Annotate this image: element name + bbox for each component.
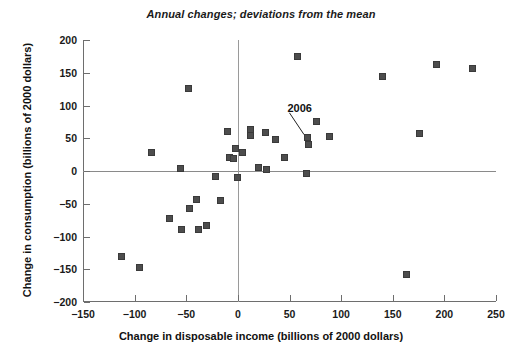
- data-point: [262, 129, 269, 136]
- annotation-label-2006: 2006: [287, 102, 311, 114]
- y-tick-label-0: 0: [71, 165, 77, 177]
- y-tick-label--150: −150: [53, 263, 77, 275]
- y-tick-100: [84, 106, 90, 107]
- y-tick-50: [84, 138, 90, 139]
- x-tick-label-50: 50: [284, 308, 296, 320]
- chart-title: Annual changes; deviations from the mean: [0, 8, 522, 20]
- data-point: [178, 226, 185, 233]
- data-point: [230, 155, 237, 162]
- data-point: [166, 215, 173, 222]
- data-point: [193, 196, 200, 203]
- data-point: [379, 73, 386, 80]
- y-tick-label-100: 100: [59, 100, 77, 112]
- data-point: [186, 205, 193, 212]
- data-point: [433, 61, 440, 68]
- x-tick-label-200: 200: [436, 308, 454, 320]
- data-point: [313, 118, 320, 125]
- data-point: [255, 164, 262, 171]
- x-tick-label-100: 100: [332, 308, 350, 320]
- data-point: [239, 149, 246, 156]
- plot-area: −200−150−100−50050100150200 −150−100−500…: [83, 40, 496, 302]
- x-tick-label-0: 0: [235, 308, 241, 320]
- y-tick-label--100: −100: [53, 231, 77, 243]
- x-axis-title: Change in disposable income (billions of…: [0, 330, 522, 342]
- scatter-chart-figure: Annual changes; deviations from the mean…: [0, 0, 522, 360]
- x-tick-100: [341, 295, 342, 301]
- x-tick-label-250: 250: [487, 308, 505, 320]
- data-point: [148, 149, 155, 156]
- y-tick-label-150: 150: [59, 67, 77, 79]
- data-point: [305, 141, 312, 148]
- y-tick-label--200: −200: [53, 296, 77, 308]
- y-tick-label-200: 200: [59, 34, 77, 46]
- x-tick-150: [393, 295, 394, 301]
- data-point: [263, 166, 270, 173]
- x-tick-label--100: −100: [123, 308, 147, 320]
- data-point: [185, 85, 192, 92]
- y-tick--200: [84, 302, 90, 303]
- zero-vertical-reference-line: [238, 40, 239, 302]
- data-point: [326, 133, 333, 140]
- data-point: [294, 53, 301, 60]
- data-point: [403, 271, 410, 278]
- x-tick-label-150: 150: [384, 308, 402, 320]
- y-tick--50: [84, 204, 90, 205]
- x-tick-200: [444, 295, 445, 301]
- data-point: [177, 165, 184, 172]
- data-point: [217, 197, 224, 204]
- data-point: [212, 173, 219, 180]
- x-tick-250: [496, 295, 497, 301]
- y-tick-label-50: 50: [65, 132, 77, 144]
- y-tick-label--50: −50: [59, 198, 77, 210]
- data-point: [203, 222, 210, 229]
- y-axis-title: Change in consumption (billions of 2000 …: [21, 30, 33, 310]
- data-point: [281, 154, 288, 161]
- data-point: [224, 128, 231, 135]
- x-tick-label--50: −50: [177, 308, 195, 320]
- zero-horizontal-reference-line: [83, 171, 496, 172]
- y-tick--100: [84, 237, 90, 238]
- data-point: [469, 65, 476, 72]
- y-tick-200: [84, 40, 90, 41]
- data-point: [416, 130, 423, 137]
- x-tick--50: [186, 295, 187, 301]
- y-tick--150: [84, 269, 90, 270]
- data-point: [195, 226, 202, 233]
- data-point: [303, 170, 310, 177]
- x-tick-0: [238, 295, 239, 301]
- x-tick--150: [83, 295, 84, 301]
- data-point: [247, 132, 254, 139]
- y-tick-150: [84, 73, 90, 74]
- data-point: [304, 134, 311, 141]
- data-point: [136, 264, 143, 271]
- x-tick--100: [135, 295, 136, 301]
- data-point: [118, 253, 125, 260]
- data-point: [234, 174, 241, 181]
- x-tick-50: [290, 295, 291, 301]
- y-tick-0: [84, 171, 90, 172]
- x-axis-spine: [83, 301, 496, 302]
- data-point: [272, 136, 279, 143]
- x-tick-label--150: −150: [71, 308, 95, 320]
